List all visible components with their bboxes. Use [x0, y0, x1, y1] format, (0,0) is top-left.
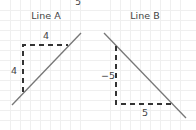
run-label: 4 [43, 30, 49, 41]
slope-triangle [23, 45, 68, 92]
panel-title: Line B [130, 10, 159, 21]
panel-line-b: Line B −5 5 [101, 10, 186, 118]
rise-label: 4 [11, 65, 17, 76]
panel-title: Line A [31, 10, 61, 21]
top-cut-label: 5 [75, 0, 81, 7]
grid [0, 0, 196, 130]
slope-diagram: 5 Line A 4 4 Line B −5 5 [0, 0, 196, 130]
rise-label: −5 [101, 70, 115, 81]
run-label: 5 [142, 107, 148, 118]
